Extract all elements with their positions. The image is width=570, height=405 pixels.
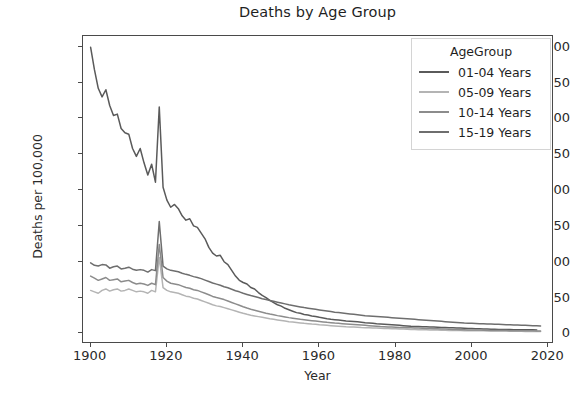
x-axis-label: Year <box>82 368 553 383</box>
x-tick-label: 1980 <box>378 348 411 363</box>
legend-color-swatch <box>419 91 449 93</box>
x-tick-label: 1920 <box>149 348 182 363</box>
legend-item: 10-14 Years <box>419 102 543 122</box>
x-tick-mark <box>395 343 396 347</box>
x-tick-mark <box>166 343 167 347</box>
chart-figure: Deaths by Age Group Deaths per 100,000 Y… <box>0 0 570 405</box>
legend-item-label: 01-04 Years <box>458 65 531 80</box>
legend: AgeGroup 01-04 Years05-09 Years10-14 Yea… <box>411 38 551 150</box>
legend-entries: 01-04 Years05-09 Years10-14 Years15-19 Y… <box>419 62 543 142</box>
legend-color-swatch <box>419 71 449 73</box>
chart-title: Deaths by Age Group <box>82 4 553 20</box>
x-tick-mark <box>242 343 243 347</box>
legend-item: 05-09 Years <box>419 82 543 102</box>
series-line <box>91 257 541 331</box>
legend-item-label: 15-19 Years <box>458 125 531 140</box>
legend-item-label: 05-09 Years <box>458 85 531 100</box>
x-tick-mark <box>318 343 319 347</box>
legend-color-swatch <box>419 111 449 113</box>
legend-color-swatch <box>419 131 449 133</box>
x-tick-label: 2020 <box>531 348 564 363</box>
series-line <box>91 245 541 331</box>
x-tick-mark <box>547 343 548 347</box>
x-tick-label: 1900 <box>73 348 106 363</box>
y-axis-label: Deaths per 100,000 <box>30 97 45 297</box>
x-tick-label: 1940 <box>226 348 259 363</box>
legend-item-label: 10-14 Years <box>458 105 531 120</box>
x-tick-mark <box>90 343 91 347</box>
legend-item: 01-04 Years <box>419 62 543 82</box>
x-tick-label: 1960 <box>302 348 335 363</box>
x-tick-mark <box>471 343 472 347</box>
legend-title: AgeGroup <box>419 44 543 62</box>
legend-item: 15-19 Years <box>419 122 543 142</box>
x-tick-label: 2000 <box>454 348 487 363</box>
